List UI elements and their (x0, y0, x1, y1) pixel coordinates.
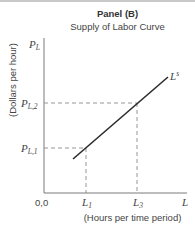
tick-label-p2: PL,2 (20, 97, 38, 111)
chart-plot: PL PL,2 PL,1 0,0 L1 L3 L Ls (0, 0, 195, 232)
x-axis-symbol: L (181, 196, 188, 208)
supply-curve (73, 77, 168, 159)
tick-label-l3: L3 (132, 196, 143, 210)
curve-label-ls: Ls (169, 69, 179, 82)
tick-label-l1: L1 (81, 196, 92, 210)
origin-label: 0,0 (35, 197, 48, 208)
y-axis-symbol: PL (28, 38, 40, 52)
tick-label-p1: PL,1 (20, 142, 38, 156)
